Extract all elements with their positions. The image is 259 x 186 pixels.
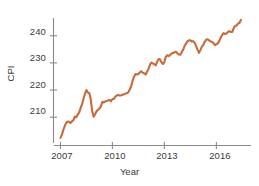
y-axis-label: CPI [5, 54, 16, 94]
cpi-series-line [60, 20, 241, 138]
x-tick-label-2013: 2013 [152, 150, 182, 161]
y-tick-label-220: 220 [20, 79, 46, 90]
x-tick-label-2007: 2007 [47, 150, 77, 161]
y-tick-label-230: 230 [20, 52, 46, 63]
cpi-line-chart: CPI Year 240 230 220 210 2007 2010 2013 … [0, 0, 259, 186]
y-tick-label-240: 240 [20, 26, 46, 37]
x-tick-label-2016: 2016 [205, 150, 235, 161]
x-tick-label-2010: 2010 [100, 150, 130, 161]
y-tick-label-210: 210 [20, 105, 46, 116]
x-axis-label: Year [0, 166, 259, 177]
